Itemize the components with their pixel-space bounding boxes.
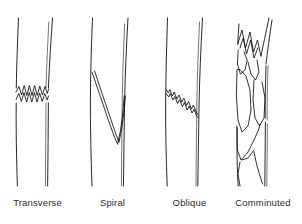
comminuted-bone-illustration bbox=[224, 0, 299, 195]
oblique-bone-illustration bbox=[152, 0, 227, 195]
transverse-bone-illustration bbox=[0, 0, 75, 195]
panel-label-transverse: Transverse bbox=[0, 197, 75, 209]
spiral-bone-illustration bbox=[75, 0, 150, 195]
fracture-panel-oblique: Oblique bbox=[152, 0, 227, 224]
panel-label-spiral: Spiral bbox=[75, 197, 150, 209]
fracture-panel-spiral: Spiral bbox=[75, 0, 150, 224]
fracture-panel-comminuted: Comminuted bbox=[224, 0, 299, 224]
fracture-panel-transverse: Transverse bbox=[0, 0, 75, 224]
fracture-types-figure: Transverse Spiral bbox=[0, 0, 302, 224]
panel-label-oblique: Oblique bbox=[152, 197, 227, 209]
panel-label-comminuted: Comminuted bbox=[224, 197, 302, 209]
